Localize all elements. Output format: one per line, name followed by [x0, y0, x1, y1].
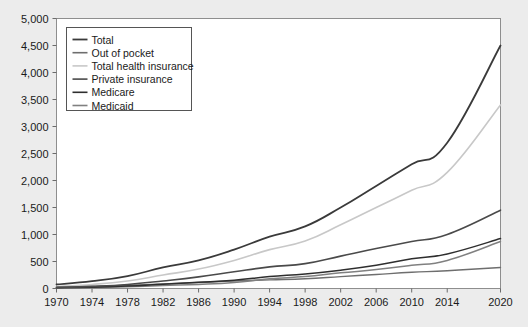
y-tick-label: 3,500 — [21, 94, 49, 106]
y-tick-label: 3,000 — [21, 121, 49, 133]
x-tick-label: 1982 — [151, 296, 175, 308]
y-tick-label: 0 — [42, 283, 48, 295]
x-tick-label: 2014 — [435, 296, 459, 308]
y-tick-label: 2,000 — [21, 175, 49, 187]
y-tick-label: 1,000 — [21, 229, 49, 241]
legend-label-total-health-insurance: Total health insurance — [92, 60, 194, 72]
legend-label-out-of-pocket: Out of pocket — [92, 47, 155, 59]
x-tick-label: 1974 — [80, 296, 104, 308]
y-tick-label: 4,500 — [21, 40, 49, 52]
legend-label-total: Total — [92, 34, 114, 46]
x-tick-label: 2020 — [488, 296, 512, 308]
chart-container: 05001,0001,5002,0002,5003,0003,5004,0004… — [0, 0, 528, 327]
y-tick-label: 1,500 — [21, 202, 49, 214]
legend-label-medicare: Medicare — [92, 86, 135, 98]
x-tick-label: 1986 — [186, 296, 210, 308]
x-tick-label: 1990 — [222, 296, 246, 308]
x-tick-label: 1994 — [257, 296, 281, 308]
y-tick-label: 500 — [30, 256, 48, 268]
y-tick-label: 5,000 — [21, 13, 49, 25]
x-tick-label: 1978 — [115, 296, 139, 308]
x-tick-label: 2002 — [328, 296, 352, 308]
x-axis-tick-labels: 1970197419781982198619901994199820022006… — [44, 296, 512, 308]
x-tick-label: 1970 — [44, 296, 68, 308]
chart-legend: TotalOut of pocketTotal health insurance… — [67, 28, 194, 112]
y-tick-label: 2,500 — [21, 148, 49, 160]
y-tick-label: 4,000 — [21, 67, 49, 79]
legend-label-private-insurance: Private insurance — [92, 73, 173, 85]
legend-label-medicaid: Medicaid — [92, 100, 134, 112]
x-tick-label: 1998 — [293, 296, 317, 308]
x-tick-label: 2006 — [364, 296, 388, 308]
line-chart: 05001,0001,5002,0002,5003,0003,5004,0004… — [0, 0, 528, 327]
x-tick-label: 2010 — [399, 296, 423, 308]
